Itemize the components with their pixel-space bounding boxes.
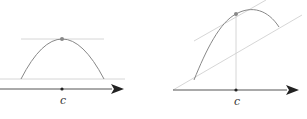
arrow-icon (111, 84, 124, 94)
tangent-point (234, 12, 238, 16)
figure: c c (0, 0, 307, 119)
c-label: c (234, 95, 240, 108)
curve (21, 39, 104, 79)
right-diagram: c (173, 0, 302, 108)
tangent-point (60, 37, 64, 41)
left-diagram: c (0, 37, 125, 107)
curve (194, 10, 279, 80)
c-point (234, 88, 237, 91)
secant-line (173, 15, 302, 90)
c-label: c (60, 94, 66, 107)
tangent-line (194, 0, 266, 41)
c-point (60, 87, 63, 90)
arrow-icon (286, 85, 299, 95)
